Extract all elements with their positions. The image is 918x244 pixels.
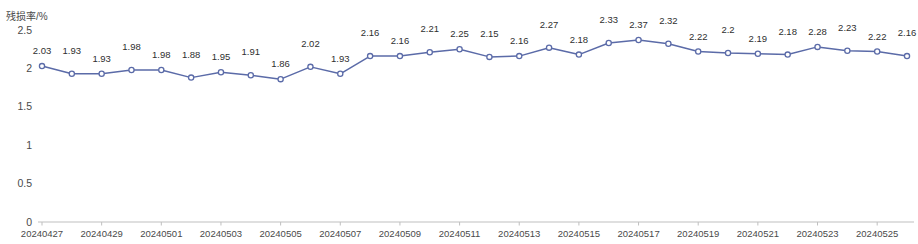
y-axis-tick-label: 0.5: [17, 177, 32, 189]
series-data-point: [815, 44, 820, 49]
x-axis-tick-labels: 2024042720240429202405012024050320240505…: [21, 228, 898, 239]
line-chart-container: 残损率/% 00.511.522.5 202404272024042920240…: [0, 0, 918, 244]
series-data-point: [397, 54, 402, 59]
series-data-label: 2.03: [33, 45, 52, 56]
series-data-point: [338, 71, 343, 76]
y-axis-tick-labels: 00.511.522.5: [17, 24, 32, 228]
y-axis-tick-label: 2: [26, 62, 32, 74]
x-axis-tick-label: 20240507: [319, 228, 361, 239]
series-data-point: [39, 63, 44, 68]
series-data-label: 2.27: [540, 19, 559, 30]
x-axis-tick-label: 20240429: [81, 228, 123, 239]
series-data-point: [69, 71, 74, 76]
series-data-label: 1.93: [92, 53, 111, 64]
series-data-point: [278, 77, 283, 82]
x-axis-tick-label: 20240501: [140, 228, 182, 239]
series-data-label: 2.37: [629, 19, 648, 30]
x-axis-tick-label: 20240513: [498, 228, 540, 239]
series-data-label: 1.93: [63, 45, 82, 56]
x-axis-tick-label: 20240505: [259, 228, 301, 239]
series-data-label: 2.16: [391, 35, 410, 46]
series-data-point: [308, 64, 313, 69]
x-axis-tick-label: 20240523: [796, 228, 838, 239]
series-data-point: [546, 45, 551, 50]
series-data-label: 2.22: [868, 31, 887, 42]
series-data-point: [159, 67, 164, 72]
series-data-label: 2.23: [838, 22, 857, 33]
series-data-point: [368, 54, 373, 59]
series-data-point: [189, 75, 194, 80]
x-axis-tick-label: 20240427: [21, 228, 63, 239]
series-data-label: 1.98: [122, 41, 141, 52]
series-data-point: [666, 41, 671, 46]
x-axis-tick-label: 20240515: [558, 228, 600, 239]
x-axis-tick-label: 20240521: [737, 228, 779, 239]
series-data-point: [218, 70, 223, 75]
series-data-label: 2.32: [659, 15, 678, 26]
series-data-label: 2.18: [570, 34, 589, 45]
series-data-point: [576, 52, 581, 57]
y-axis-tick-label: 1.5: [17, 100, 32, 112]
series-data-label: 2.16: [898, 27, 917, 38]
series-data-label: 1.88: [182, 49, 201, 60]
series-data-point: [696, 49, 701, 54]
chart-plot-area: 00.511.522.5 202404272024042920240501202…: [0, 0, 918, 244]
series-data-point: [99, 71, 104, 76]
series-data-point: [427, 50, 432, 55]
series-data-label: 2.02: [301, 38, 320, 49]
series-data-point: [755, 51, 760, 56]
series-data-label: 2.2: [721, 24, 734, 35]
x-axis-tick-label: 20240525: [856, 228, 898, 239]
series-data-label: 2.22: [689, 31, 708, 42]
series-line: [42, 40, 907, 79]
series-data-point: [487, 54, 492, 59]
series-data-label: 1.98: [152, 49, 171, 60]
x-axis-baseline: [38, 222, 914, 226]
y-axis-tick-label: 2.5: [17, 24, 32, 36]
series-data-label: 2.28: [808, 26, 827, 37]
series-data-point: [904, 54, 909, 59]
series-data-label: 2.25: [450, 28, 469, 39]
series-data-point: [457, 47, 462, 52]
series-data-label: 2.21: [421, 23, 440, 34]
x-axis-tick-label: 20240509: [379, 228, 421, 239]
series-data-point: [517, 54, 522, 59]
series-data-point: [875, 49, 880, 54]
series-data-label: 1.93: [331, 53, 350, 64]
series-data-label: 2.18: [778, 26, 797, 37]
series-data-label: 1.86: [271, 58, 290, 69]
series-data-label: 2.16: [510, 35, 529, 46]
series-data-point: [636, 37, 641, 42]
series-data-point: [606, 40, 611, 45]
y-axis-tick-label: 0: [26, 216, 32, 228]
series-data-label: 2.33: [599, 14, 618, 25]
series-data-label: 2.15: [480, 28, 499, 39]
series-data-label: 2.19: [749, 33, 768, 44]
x-axis-tick-label: 20240503: [200, 228, 242, 239]
series-data-point: [248, 73, 253, 78]
x-axis-tick-label: 20240517: [617, 228, 659, 239]
series-path-group: [42, 40, 907, 79]
series-data-label: 2.16: [361, 27, 380, 38]
series-data-labels-group: 2.031.931.931.981.981.881.951.911.862.02…: [33, 14, 917, 69]
x-axis-tick-label: 20240519: [677, 228, 719, 239]
series-data-point: [725, 50, 730, 55]
series-data-label: 1.91: [242, 46, 261, 57]
series-data-point: [845, 48, 850, 53]
series-data-point: [785, 52, 790, 57]
x-axis-tick-label: 20240511: [439, 228, 481, 239]
series-data-label: 1.95: [212, 51, 231, 62]
series-data-point: [129, 67, 134, 72]
y-axis-tick-label: 1: [26, 139, 32, 151]
